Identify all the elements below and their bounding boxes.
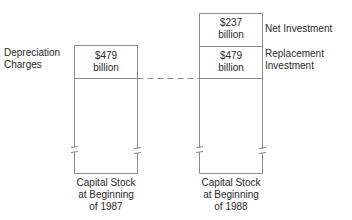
left-break-marks — [71, 147, 141, 154]
depreciation-label-line1: Depreciation — [4, 47, 74, 59]
replacement-label-line1: Replacement — [265, 48, 324, 60]
net-investment-label: Net Investment — [265, 23, 332, 35]
left-depreciation-value-cell: $479 billion — [75, 50, 137, 78]
caption-1988-line1: Capital Stock — [185, 177, 277, 189]
caption-1987: Capital Stock at Beginning of 1987 — [60, 177, 152, 213]
net-investment-amount: $237 — [200, 17, 262, 29]
replacement-investment-unit: billion — [200, 62, 262, 74]
caption-1988-line3: of 1988 — [185, 201, 277, 213]
net-investment-value-cell: $237 billion — [200, 17, 262, 45]
replacement-investment-value-cell: $479 billion — [200, 50, 262, 78]
left-value-unit: billion — [75, 62, 137, 74]
caption-1987-line1: Capital Stock — [60, 177, 152, 189]
caption-1987-line2: at Beginning — [60, 189, 152, 201]
depreciation-charges-label: Depreciation Charges — [4, 47, 74, 71]
replacement-label-line2: Investment — [265, 60, 324, 72]
caption-1988-line2: at Beginning — [185, 189, 277, 201]
replacement-investment-label: Replacement Investment — [265, 48, 324, 72]
caption-1987-line3: of 1987 — [60, 201, 152, 213]
replacement-investment-amount: $479 — [200, 50, 262, 62]
depreciation-label-line2: Charges — [4, 59, 74, 71]
caption-1988: Capital Stock at Beginning of 1988 — [185, 177, 277, 213]
right-break-marks — [196, 147, 266, 154]
left-value-amount: $479 — [75, 50, 137, 62]
net-investment-unit: billion — [200, 29, 262, 41]
